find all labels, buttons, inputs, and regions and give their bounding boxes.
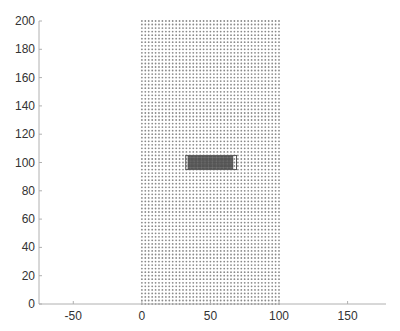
y-tick-label: 100 (15, 156, 35, 170)
x-tick-label: 0 (139, 309, 146, 323)
y-tick-label: 0 (28, 297, 35, 311)
y-tick-label: 60 (22, 212, 36, 226)
y-tick-label: 80 (22, 184, 36, 198)
y-tick-label: 120 (15, 127, 35, 141)
y-tick-label: 20 (22, 269, 36, 283)
x-tick-label: 100 (269, 309, 289, 323)
x-tick-label: -50 (65, 309, 83, 323)
y-tick-label: 180 (15, 42, 35, 56)
x-tick-label: 50 (204, 309, 218, 323)
y-tick-label: 160 (15, 71, 35, 85)
y-tick-label: 40 (22, 240, 36, 254)
dense-region-points (188, 156, 234, 169)
scatter-chart: -50050100150020406080100120140160180200 (0, 0, 400, 331)
y-tick-label: 200 (15, 14, 35, 28)
y-tick-label: 140 (15, 99, 35, 113)
x-tick-label: 150 (338, 309, 358, 323)
